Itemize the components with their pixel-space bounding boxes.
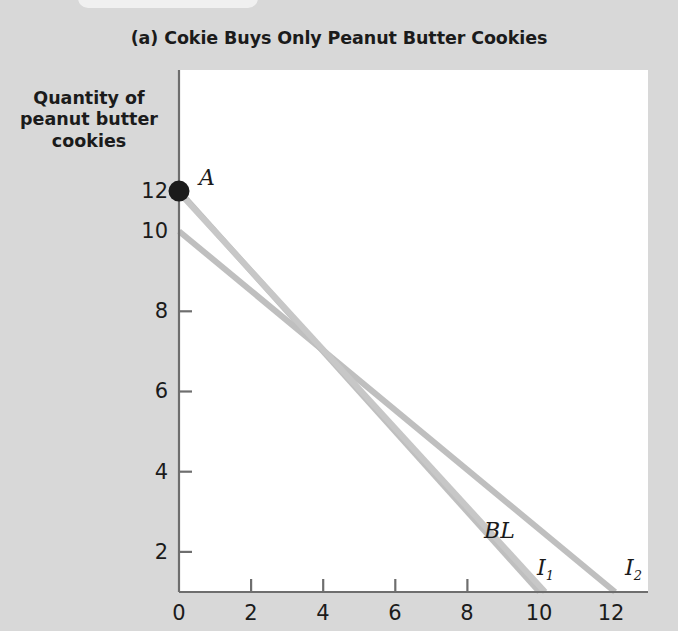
page-title: (a) Cokie Buys Only Peanut Butter Cookie… — [0, 28, 678, 48]
point-a-label: A — [199, 165, 215, 190]
curve-label-i2-subscript: 2 — [634, 568, 642, 583]
curve-label-bl: BL — [484, 520, 515, 542]
x-tick-label-0: 0 — [159, 603, 199, 624]
y-tick-label-10: 10 — [122, 221, 168, 242]
x-tick-label-10: 10 — [519, 603, 559, 624]
curve-label-i1-text: I — [537, 555, 546, 580]
curve-label-i2: I2 — [625, 557, 642, 582]
y-tick-label-2: 2 — [122, 542, 168, 563]
y-tick-label-4: 4 — [122, 462, 168, 483]
y-tick-label-8: 8 — [122, 301, 168, 322]
plot-area — [179, 70, 648, 592]
x-tick-label-2: 2 — [231, 603, 271, 624]
curve-label-i1: I1 — [537, 557, 554, 582]
x-tick-label-12: 12 — [591, 603, 631, 624]
y-axis-title: Quantity of peanut butter cookies — [6, 88, 172, 152]
curve-label-i2-text: I — [625, 555, 634, 580]
x-tick-label-6: 6 — [375, 603, 415, 624]
y-tick-label-6: 6 — [122, 381, 168, 402]
y-tick-label-12: 12 — [122, 181, 168, 202]
x-tick-label-4: 4 — [303, 603, 343, 624]
x-tick-label-8: 8 — [447, 603, 487, 624]
economics-figure: (a) Cokie Buys Only Peanut Butter Cookie… — [0, 0, 678, 631]
curve-label-i1-subscript: 1 — [546, 568, 554, 583]
